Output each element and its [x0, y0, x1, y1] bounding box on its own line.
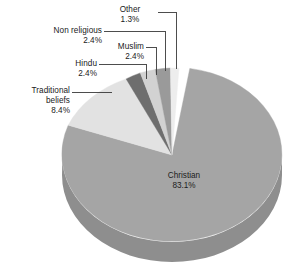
leader-line-other [158, 12, 176, 69]
slice-label-non-religious-value: 2.4% [22, 36, 102, 46]
pie-top-face [62, 68, 282, 241]
slice-label-muslim-name: Muslim [92, 42, 144, 52]
slice-label-other-value: 1.3% [104, 15, 156, 25]
slice-label-christian-value: 83.1% [145, 181, 223, 191]
slice-label-traditional-beliefs-name-line2: beliefs [4, 96, 70, 106]
slice-label-muslim-value: 2.4% [92, 52, 144, 62]
slice-label-christian: Christian 83.1% [145, 171, 223, 192]
slice-label-traditional-beliefs: Traditional beliefs 8.4% [4, 86, 70, 117]
slice-label-non-religious: Non religious 2.4% [22, 26, 102, 46]
slice-label-traditional-beliefs-name-line1: Traditional [4, 86, 70, 96]
slice-label-traditional-beliefs-value: 8.4% [4, 106, 70, 116]
slice-label-hindu-name: Hindu [45, 59, 97, 69]
slice-label-hindu-value: 2.4% [45, 69, 97, 79]
slice-label-other: Other 1.3% [104, 5, 156, 25]
slice-label-hindu: Hindu 2.4% [45, 59, 97, 79]
slice-label-muslim: Muslim 2.4% [92, 42, 144, 62]
slice-label-other-name: Other [104, 5, 156, 15]
slice-label-non-religious-name: Non religious [22, 26, 102, 36]
pie-chart-figure: Other 1.3% Non religious 2.4% Muslim 2.4… [0, 0, 298, 279]
slice-label-christian-name: Christian [145, 171, 223, 181]
